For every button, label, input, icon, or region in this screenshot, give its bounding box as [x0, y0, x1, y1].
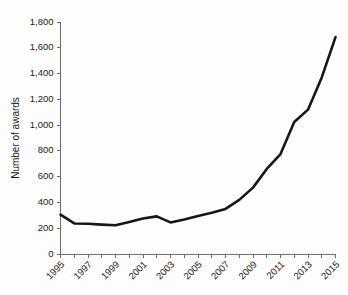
- x-tick-label: 2009: [236, 259, 259, 282]
- y-tick-label: 1,800: [30, 16, 54, 27]
- x-tick-label: 2013: [291, 259, 314, 282]
- y-tick-label: 1,000: [30, 119, 54, 130]
- x-tick-label: 1997: [71, 259, 94, 282]
- x-tick-label: 2001: [126, 259, 149, 282]
- y-axis-tick-labels: 02004006008001,0001,2001,4001,6001,800: [30, 16, 54, 259]
- y-tick-label: 0: [48, 248, 53, 259]
- x-tick-label: 1999: [99, 259, 122, 282]
- x-tick-label: 2015: [319, 259, 342, 282]
- y-tick-label: 1,600: [30, 41, 54, 52]
- y-axis-title: Number of awards: [10, 97, 21, 179]
- x-tick-label: 1995: [44, 259, 67, 282]
- data-series-line: [61, 37, 336, 225]
- x-tick-label: 2005: [181, 259, 204, 282]
- y-tick-label: 400: [38, 196, 54, 207]
- y-tick-label: 600: [38, 170, 54, 181]
- x-tick-label: 2007: [209, 259, 232, 282]
- x-axis-tick-labels: 1995199719992001200320052007200920112013…: [44, 259, 342, 282]
- y-tick-label: 1,200: [30, 93, 54, 104]
- y-tick-label: 1,400: [30, 67, 54, 78]
- y-axis-tick-marks: [57, 22, 61, 254]
- chart-figure: 02004006008001,0001,2001,4001,6001,800 1…: [0, 0, 348, 295]
- line-chart: 02004006008001,0001,2001,4001,6001,800 1…: [0, 0, 348, 295]
- x-tick-label: 2003: [154, 259, 177, 282]
- x-tick-label: 2011: [264, 259, 286, 281]
- y-tick-label: 800: [38, 144, 54, 155]
- y-tick-label: 200: [38, 222, 54, 233]
